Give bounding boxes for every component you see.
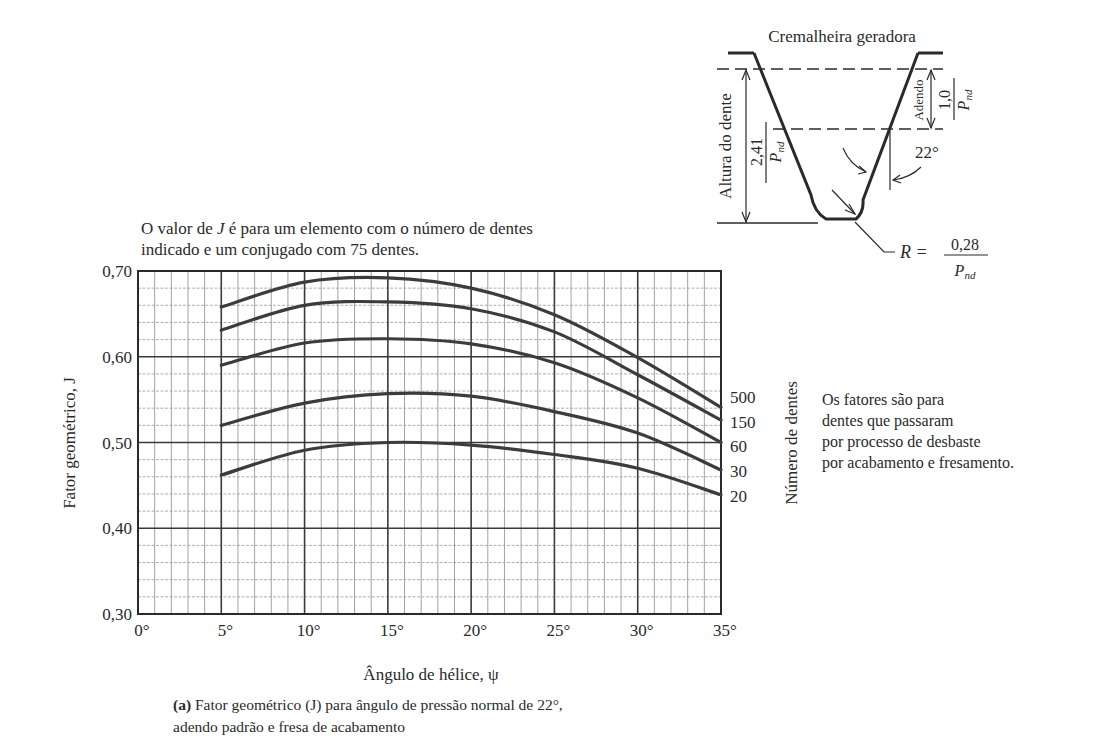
series-label-20: 20 — [730, 487, 747, 506]
x-tick-label: 35° — [713, 621, 737, 640]
caption-label: (a) — [173, 696, 191, 713]
y-tick-label: 0,30 — [102, 605, 132, 624]
j-factor-chart: 0,300,400,500,600,70 0°5°10°15°20°25°30°… — [0, 0, 1117, 745]
side-note: Os fatores são para dentes que passaram … — [822, 389, 1014, 473]
x-tick-label: 5° — [218, 621, 233, 640]
radius-denominator: Pnd — [954, 262, 976, 281]
y-axis-label: Fator geométrico, J — [60, 377, 79, 509]
addendum-denominator: Pnd — [955, 89, 974, 111]
radius-label: R = — [899, 242, 928, 262]
rack-title: Cremalheira geradora — [768, 27, 916, 46]
y-tick-label: 0,60 — [102, 348, 132, 367]
y-tick-label: 0,70 — [102, 262, 132, 281]
side-note-line: dentes que passaram — [822, 410, 1014, 431]
x-tick-label: 15° — [380, 621, 404, 640]
pressure-angle-label: 22° — [915, 143, 939, 162]
y-tick-label: 0,40 — [102, 519, 132, 538]
y-tick-label: 0,50 — [102, 434, 132, 453]
y-tick-labels: 0,300,400,500,600,70 — [102, 262, 132, 624]
series-label-60: 60 — [730, 437, 747, 456]
rack-diagram: Cremalheira geradora Altura do dente 2,4… — [716, 27, 988, 281]
x-tick-label: 20° — [463, 621, 487, 640]
tooth-height-denominator: Pnd — [767, 141, 786, 163]
caption-text: adendo padrão e fresa de acabamento — [173, 716, 563, 738]
legend-title: Número de dentes — [782, 381, 801, 505]
side-note-line: Os fatores são para — [822, 389, 1014, 410]
caption-text: Fator geométrico (J) para ângulo de pres… — [191, 696, 563, 713]
x-tick-label: 10° — [297, 621, 321, 640]
x-axis-label: Ângulo de hélice, ψ — [363, 665, 499, 684]
x-tick-labels: 0°5°10°15°20°25°30°35° — [134, 621, 737, 640]
radius-value: 0,28 — [951, 236, 979, 253]
series-label-500: 500 — [730, 388, 756, 407]
x-tick-label: 25° — [547, 621, 571, 640]
tooth-height-value: 2,41 — [748, 138, 765, 166]
figure-caption: (a) Fator geométrico (J) para ângulo de … — [173, 694, 563, 738]
side-note-line: por acabamento e fresamento. — [822, 452, 1014, 473]
series-label-30: 30 — [730, 462, 747, 481]
series-labels: 500150603020 — [730, 388, 756, 506]
tooth-height-label: Altura do dente — [716, 93, 735, 199]
addendum-value: 1,0 — [936, 90, 953, 110]
series-label-150: 150 — [730, 413, 756, 432]
x-tick-label: 30° — [630, 621, 654, 640]
addendum-label: Adendo — [911, 79, 926, 120]
x-tick-label: 0° — [134, 621, 149, 640]
side-note-line: por processo de desbaste — [822, 431, 1014, 452]
